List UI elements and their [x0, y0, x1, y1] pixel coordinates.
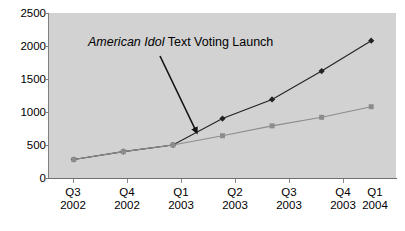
annotation-arrow-line — [160, 56, 196, 131]
data-point-marker — [270, 123, 275, 128]
data-point-marker — [220, 133, 225, 138]
chart-overlay — [0, 0, 405, 231]
data-point-marker — [319, 68, 325, 74]
series-line-lower-series — [74, 107, 371, 160]
data-point-marker — [121, 149, 126, 154]
data-point-marker — [369, 104, 374, 109]
chart-container: 2500 2000 1500 1000 500 0 Q3 2002 Q4 200… — [0, 0, 405, 231]
series-line-upper-series — [74, 41, 371, 160]
data-point-marker — [319, 115, 324, 120]
data-point-marker — [368, 38, 374, 44]
data-point-marker — [269, 96, 275, 102]
data-point-marker — [219, 116, 225, 122]
data-point-marker — [170, 143, 175, 148]
annotation-arrow — [160, 56, 196, 131]
series-layer — [71, 38, 375, 163]
data-point-marker — [71, 157, 76, 162]
